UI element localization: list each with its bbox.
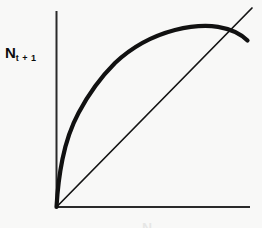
figure-canvas: Nt + 1 Nt [0, 0, 262, 228]
x-axis-label-base: N [142, 220, 152, 228]
plot-area [0, 0, 262, 228]
recruitment-curve [57, 26, 248, 207]
x-axis-label: Nt [142, 221, 155, 228]
y-axis-label-base: N [5, 44, 16, 61]
y-axis-label-subscript: t + 1 [16, 53, 37, 63]
y-axis-label: Nt + 1 [5, 45, 37, 63]
